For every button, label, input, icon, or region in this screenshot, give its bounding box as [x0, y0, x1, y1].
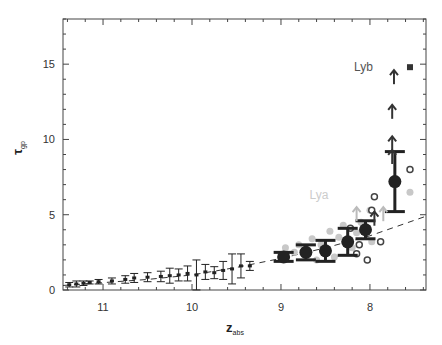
series-dashed-line [63, 216, 426, 285]
series-errorbar [65, 254, 254, 290]
y-tick-label: 15 [43, 58, 55, 70]
x-tick-label: 10 [186, 301, 198, 313]
annotation-lyb: Lyb [354, 60, 373, 74]
y-tick-label: 10 [43, 133, 55, 145]
annotation-lya: Lya [309, 188, 328, 202]
x-tick-label: 8 [367, 301, 373, 313]
x-tick-label: 11 [97, 301, 108, 313]
x-tick-label: 9 [278, 301, 284, 313]
chart: LybLya 111098051015 zabs τgp [0, 0, 442, 345]
x-axis-label: zabs [226, 320, 244, 336]
y-axis-label: τgp [10, 141, 27, 155]
series-filled-circle [274, 152, 405, 264]
series-square [407, 64, 413, 70]
data-layer [63, 64, 426, 290]
annotations: LybLya [309, 60, 373, 202]
y-tick-label: 5 [49, 209, 55, 221]
y-tick-label: 0 [49, 284, 55, 296]
